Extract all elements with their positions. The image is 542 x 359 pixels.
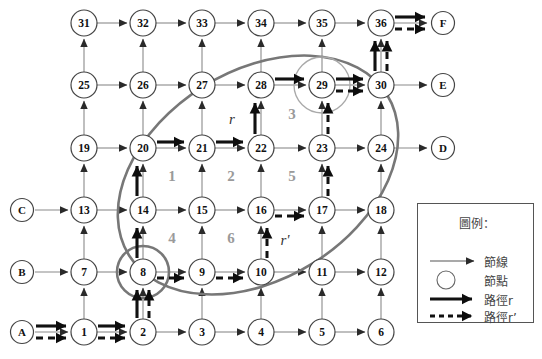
- svg-text:28: 28: [255, 79, 267, 91]
- legend-label-arc: 節線: [484, 253, 508, 270]
- svg-text:23: 23: [316, 142, 328, 154]
- svg-text:19: 19: [78, 142, 90, 154]
- svg-text:1: 1: [168, 168, 176, 184]
- svg-text:11: 11: [317, 266, 328, 278]
- svg-text:5: 5: [319, 326, 325, 338]
- network-diagram-figure: 3132333435362526272829301920212223241314…: [0, 0, 542, 359]
- svg-text:18: 18: [375, 204, 387, 216]
- legend-label-path-r: 路徑r: [484, 291, 513, 308]
- svg-text:34: 34: [255, 17, 267, 29]
- svg-text:29: 29: [316, 79, 328, 91]
- svg-text:1: 1: [81, 326, 87, 338]
- svg-text:27: 27: [196, 79, 208, 91]
- svg-text:22: 22: [255, 142, 267, 154]
- svg-text:C: C: [18, 204, 26, 216]
- svg-text:2: 2: [140, 326, 146, 338]
- svg-text:15: 15: [196, 204, 208, 216]
- svg-text:r: r: [229, 111, 235, 127]
- region-labels-layer: 125346: [168, 106, 296, 246]
- legend-label-path-rp: 路徑r’: [484, 308, 517, 325]
- svg-text:32: 32: [137, 17, 149, 29]
- svg-text:6: 6: [227, 230, 235, 246]
- svg-text:10: 10: [255, 266, 267, 278]
- svg-text:21: 21: [196, 142, 208, 154]
- svg-text:9: 9: [199, 266, 205, 278]
- svg-text:30: 30: [375, 79, 387, 91]
- svg-text:4: 4: [168, 230, 176, 246]
- svg-text:r': r': [280, 232, 290, 248]
- svg-text:5: 5: [288, 168, 296, 184]
- svg-text:14: 14: [137, 204, 149, 216]
- svg-text:12: 12: [375, 266, 387, 278]
- svg-text:A: A: [18, 326, 26, 338]
- svg-text:26: 26: [137, 79, 149, 91]
- svg-text:7: 7: [81, 266, 87, 278]
- legend-label-node: 節點: [484, 272, 508, 289]
- svg-text:33: 33: [196, 17, 208, 29]
- svg-text:B: B: [18, 266, 26, 278]
- svg-text:35: 35: [316, 17, 328, 29]
- path-labels-layer: rr': [229, 111, 290, 248]
- svg-text:E: E: [439, 79, 446, 91]
- svg-text:6: 6: [378, 326, 384, 338]
- svg-text:16: 16: [255, 204, 267, 216]
- svg-text:2: 2: [227, 168, 235, 184]
- svg-text:4: 4: [258, 326, 264, 338]
- svg-text:25: 25: [78, 79, 90, 91]
- svg-text:3: 3: [288, 106, 296, 122]
- svg-text:F: F: [440, 17, 447, 29]
- legend-symbols: [418, 204, 535, 324]
- svg-text:8: 8: [140, 266, 146, 278]
- svg-text:20: 20: [137, 142, 149, 154]
- legend-panel: 圖例： 節線 節點 路徑r 路徑r’: [417, 203, 534, 323]
- svg-text:3: 3: [199, 326, 205, 338]
- svg-text:D: D: [439, 142, 447, 154]
- svg-text:24: 24: [375, 142, 387, 154]
- svg-text:31: 31: [78, 17, 90, 29]
- svg-text:13: 13: [78, 204, 90, 216]
- svg-text:17: 17: [316, 204, 328, 216]
- svg-text:36: 36: [375, 17, 387, 29]
